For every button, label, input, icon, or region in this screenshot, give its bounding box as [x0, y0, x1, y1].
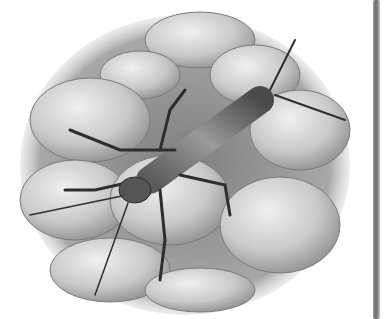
- stonefly-nymph-illustration: [0, 0, 370, 319]
- page-edge-bar: [373, 0, 380, 319]
